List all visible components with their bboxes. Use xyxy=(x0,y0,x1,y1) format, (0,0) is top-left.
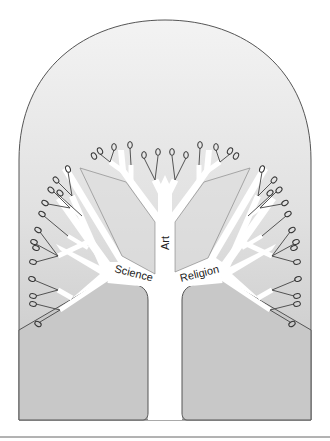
tree-diagram: Science Art Religion xyxy=(0,0,330,441)
label-art: Art xyxy=(159,236,171,250)
